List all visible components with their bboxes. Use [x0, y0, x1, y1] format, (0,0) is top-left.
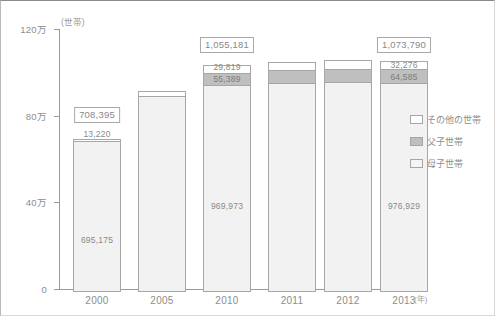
x-label-2011: 2011 — [268, 295, 316, 306]
bar-2010-label-fushi: 55,389 — [213, 74, 240, 84]
y-axis-line — [59, 29, 60, 289]
bar-2000[interactable] — [73, 139, 121, 291]
y-tick-label-0: 0 — [42, 284, 47, 295]
y-axis-unit-label: (世帯) — [61, 15, 85, 27]
y-tick-label-80: 80万 — [26, 109, 47, 123]
x-label-2010: 2010 — [203, 295, 251, 306]
legend-label-sonota: その他の世帯 — [427, 113, 481, 126]
y-tick-40: 40万 — [54, 202, 59, 203]
bar-2013-label-sonota: 32,276 — [390, 60, 417, 70]
bar-2011-seg-boshi[interactable] — [268, 83, 316, 292]
x-label-2005: 2005 — [138, 295, 186, 306]
x-axis-unit-label: (年) — [414, 293, 427, 304]
plot-area: 120万 80万 40万 0 708,395 13,220 695,175 20… — [59, 29, 409, 291]
legend-item-sonota[interactable]: その他の世帯 — [410, 113, 481, 126]
bar-2010-total-label: 1,055,181 — [200, 37, 254, 53]
bar-2013-label-fushi: 64,585 — [390, 72, 417, 82]
bar-2000-label-sonota: 13,220 — [83, 129, 110, 139]
bar-2010-seg-boshi[interactable] — [203, 85, 251, 292]
y-tick-0: 0 — [54, 289, 59, 290]
bar-2000-total-label: 708,395 — [74, 107, 120, 123]
bar-2005[interactable] — [138, 91, 186, 291]
bar-group-2011[interactable]: 2011 — [268, 31, 316, 291]
bar-2010[interactable] — [203, 65, 251, 291]
legend-swatch-sonota-icon — [410, 115, 423, 124]
x-label-2000: 2000 — [73, 295, 121, 306]
y-tick-label-120: 120万 — [20, 22, 47, 36]
legend-item-fushi[interactable]: 父子世帯 — [410, 135, 481, 148]
bar-2000-label-boshi: 695,175 — [81, 235, 113, 245]
bar-2012-seg-fushi[interactable] — [324, 69, 372, 83]
bar-2013-total-label: 1,073,790 — [377, 37, 431, 53]
bar-group-2000[interactable]: 708,395 13,220 695,175 2000 — [73, 31, 121, 291]
bar-2010-label-sonota: 29,819 — [213, 62, 240, 72]
bar-2012[interactable] — [324, 60, 372, 291]
bar-2000-seg-boshi[interactable] — [73, 141, 121, 292]
bar-group-2005[interactable]: 2005 — [138, 31, 186, 291]
y-tick-label-40: 40万 — [26, 195, 47, 209]
x-label-2012: 2012 — [324, 295, 372, 306]
bar-2011[interactable] — [268, 62, 316, 291]
bar-2013-label-boshi: 976,929 — [388, 201, 420, 211]
legend-item-boshi[interactable]: 母子世帯 — [410, 157, 481, 170]
legend-swatch-boshi-icon — [410, 159, 423, 168]
bar-2011-seg-fushi[interactable] — [268, 70, 316, 84]
bar-2005-seg-boshi[interactable] — [138, 96, 186, 292]
chart-frame: (世帯) 120万 80万 40万 0 708,395 13,220 695,1… — [0, 0, 495, 316]
bar-group-2010[interactable]: 1,055,181 29,819 55,389 969,973 2010 — [203, 31, 251, 291]
bar-2012-seg-boshi[interactable] — [324, 82, 372, 292]
legend-label-boshi: 母子世帯 — [427, 157, 463, 170]
bar-2010-label-boshi: 969,973 — [211, 201, 243, 211]
y-tick-80: 80万 — [54, 116, 59, 117]
legend: その他の世帯 父子世帯 母子世帯 — [410, 113, 481, 179]
legend-label-fushi: 父子世帯 — [427, 135, 463, 148]
bar-group-2012[interactable]: 2012 — [324, 31, 372, 291]
legend-swatch-fushi-icon — [410, 137, 423, 146]
y-tick-120: 120万 — [54, 29, 59, 30]
